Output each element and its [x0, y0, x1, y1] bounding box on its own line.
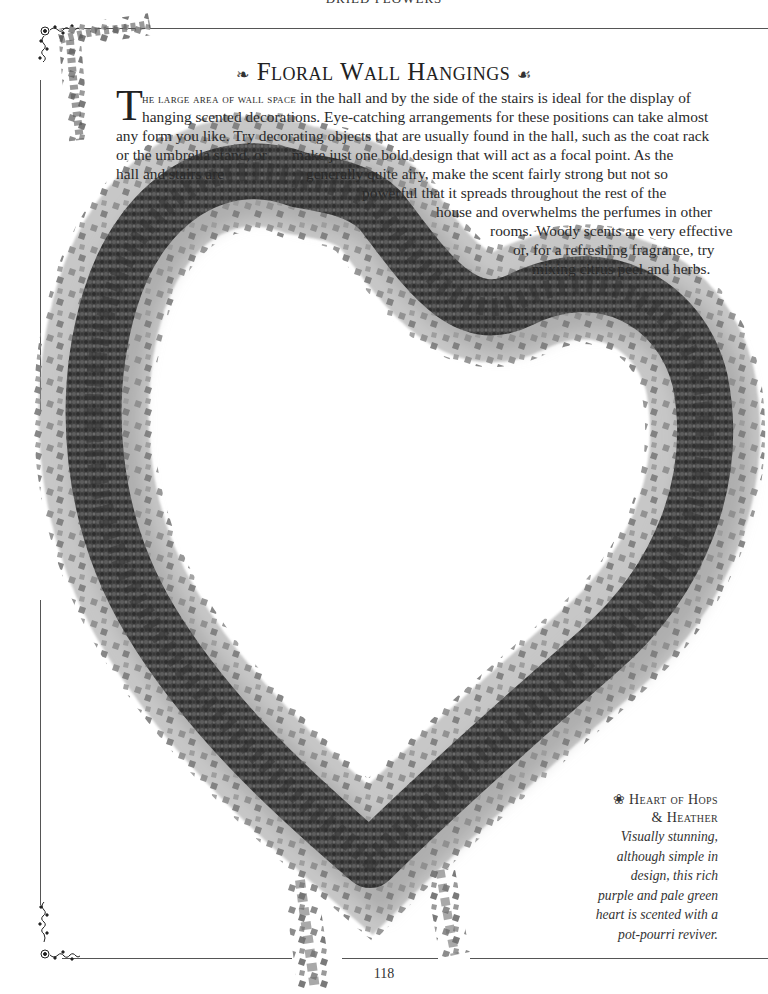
- intro-line-4a: or the umbrella stand, or: [116, 145, 267, 164]
- bottom-rule-middle: [342, 958, 438, 959]
- page-title-text: Floral Wall Hangings: [257, 58, 511, 85]
- intro-line-8: rooms. Woody scents are very effective: [490, 221, 733, 240]
- bottom-rule-left: [62, 958, 292, 959]
- caption-body-2: although simple in: [518, 847, 718, 867]
- caption-body-5: heart is scented with a: [518, 905, 718, 925]
- caption-body-1: Visually stunning,: [518, 827, 718, 847]
- caption-body-4: purple and pale green: [518, 886, 718, 906]
- intro-lead-smallcaps: he large area of wall space: [142, 92, 296, 106]
- title-flourish-right-icon: ☙: [517, 66, 532, 83]
- caption-title-line1: Heart of Hops: [629, 792, 718, 807]
- left-rule-upper: [40, 80, 41, 414]
- intro-line-6: powerful that it spreads throughout the …: [362, 183, 666, 202]
- photo-caption: ❀ Heart of Hops & Heather Visually stunn…: [518, 791, 718, 945]
- title-flourish-left-icon: ❧: [236, 66, 250, 83]
- left-rule-lower: [40, 600, 41, 905]
- drop-cap: T: [116, 86, 143, 126]
- bottom-rule-right: [470, 958, 768, 959]
- intro-line-4b: make just one bold design that will act …: [292, 145, 673, 164]
- intro-line-1: in the hall and by the side of the stair…: [296, 89, 691, 106]
- intro-line-2: hanging scented decorations. Eye-catchin…: [142, 107, 708, 126]
- intro-line-9: or, for a refreshing fragrance, try: [513, 240, 715, 259]
- corner-ornament-bottom-left-icon: [36, 900, 92, 964]
- intro-line-5b: generally quite airy, make the scent fai…: [306, 164, 668, 183]
- top-rule: [62, 28, 768, 29]
- caption-bullet-icon: ❀: [613, 792, 625, 807]
- intro-line-5a: hall and stairs are: [116, 164, 224, 183]
- intro-line-7: house and overwhelms the perfumes in oth…: [436, 202, 712, 221]
- running-head: DRIED FLOWERS: [0, 0, 768, 7]
- intro-line-10: mixing citrus peel and herbs.: [532, 259, 710, 278]
- page-number: 118: [0, 966, 768, 982]
- intro-line-3: any form you like. Try decorating object…: [116, 126, 709, 145]
- caption-title-line2: & Heather: [518, 809, 718, 827]
- caption-body-6: pot-pourri reviver.: [518, 925, 718, 945]
- caption-body-3: design, this rich: [518, 866, 718, 886]
